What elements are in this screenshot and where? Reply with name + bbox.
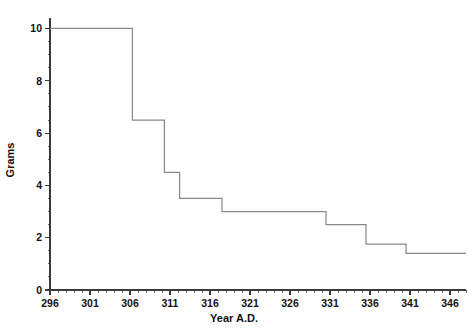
- y-tick-label: 10: [30, 22, 42, 34]
- y-tick-label: 6: [36, 127, 42, 139]
- x-tick-label: 301: [81, 297, 99, 309]
- y-tick-label: 2: [36, 231, 42, 243]
- x-tick-label: 346: [441, 297, 459, 309]
- x-tick-label: 296: [41, 297, 59, 309]
- y-tick-label: 8: [36, 75, 42, 87]
- x-tick-label: 341: [401, 297, 419, 309]
- x-tick-label: 306: [121, 297, 139, 309]
- x-axis-title: Year A.D.: [210, 312, 258, 324]
- chart-background: [0, 0, 468, 334]
- x-tick-label: 326: [281, 297, 299, 309]
- x-tick-label: 331: [321, 297, 339, 309]
- x-tick-label: 311: [162, 297, 179, 309]
- y-tick-label: 0: [36, 284, 42, 296]
- x-tick-label: 321: [241, 297, 259, 309]
- x-tick-label: 316: [201, 297, 219, 309]
- chart-container: 0246810 29630130631131632132633133634134…: [0, 0, 468, 334]
- x-tick-label: 336: [361, 297, 379, 309]
- y-axis-title: Grams: [4, 143, 16, 178]
- step-chart: 0246810 29630130631131632132633133634134…: [0, 0, 468, 334]
- y-tick-label: 4: [36, 179, 42, 191]
